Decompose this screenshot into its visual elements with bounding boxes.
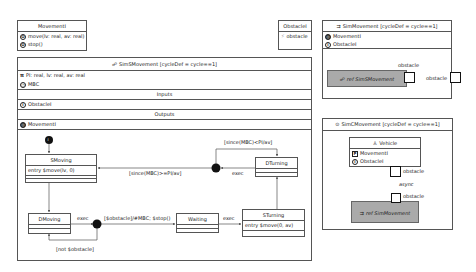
junction-dturning xyxy=(212,164,221,173)
ref-port-label: obstacle xyxy=(403,193,424,199)
output-interface-icon: ◎ xyxy=(325,34,331,40)
provided-interface-icon: P xyxy=(352,151,358,157)
ref-obstacle-port[interactable] xyxy=(391,193,401,203)
state-sturning[interactable]: STurning entry $move(0, av) xyxy=(242,209,305,237)
transition-label-not-obstacle: [not $obstacle] xyxy=(56,246,94,252)
junction-dmoving xyxy=(93,220,102,229)
robot-icon: ♙ xyxy=(373,140,377,146)
transition-label-dmoving-exec: exec xyxy=(77,215,89,221)
module-icon: ⇉ xyxy=(336,23,340,29)
vehicle-input: iObstacleI xyxy=(350,157,420,165)
outer-obstacle-port[interactable] xyxy=(450,72,461,83)
initial-state xyxy=(45,136,53,144)
state-smoving[interactable]: SMoving entry $move(lv, 0) xyxy=(25,154,97,183)
state-dturning[interactable]: DTurning xyxy=(255,157,298,177)
sim-movement-header: ⇉SimMovement [cycleDef = cycle==1] xyxy=(323,21,451,32)
inner-obstacle-port[interactable] xyxy=(404,72,415,83)
ref-sim-s-movement[interactable]: ☍ref SimSMovement xyxy=(327,70,407,87)
vehicle-provided: PMovementI xyxy=(350,149,420,157)
state-waiting[interactable]: Waiting xyxy=(176,213,219,233)
vehicle-box[interactable]: ♙Vehicle PMovementI iObstacleI xyxy=(349,137,421,167)
vehicle-header: ♙Vehicle xyxy=(350,138,420,149)
input-interface-icon: i xyxy=(325,42,331,48)
sim-c-movement-header: ⊙SimCMovement [cycleDef = cycle==1] xyxy=(323,119,452,131)
transition-label-guard-loop: [since(MBC)<PI/av] xyxy=(224,139,272,145)
outer-port-label: obstacle xyxy=(426,75,447,81)
transition-label-dturning-exec: exec xyxy=(232,170,244,176)
transition-label-to-smoving: [since(MBC)>=PI/av] xyxy=(129,170,182,176)
sim-movement-output: ◎MovementI xyxy=(323,32,451,40)
inner-port-label: obstacle xyxy=(398,62,419,68)
state-machine-icon: ☍ xyxy=(340,76,345,82)
vehicle-port-label: obstacle xyxy=(403,168,424,174)
input-interface-icon: i xyxy=(352,159,358,165)
vehicle-obstacle-port[interactable] xyxy=(390,166,401,177)
transition-label-waiting-exec: exec xyxy=(223,215,235,221)
module-icon: ⇉ xyxy=(360,210,364,216)
state-dmoving[interactable]: DMoving xyxy=(28,213,71,234)
initial-state-label: i xyxy=(48,137,49,142)
ref-sim-movement[interactable]: ⇉ref SimMovement xyxy=(351,201,419,223)
controller-icon: ⊙ xyxy=(335,121,339,127)
async-connection-label: async xyxy=(399,181,414,187)
sim-movement-input: iObstacleI xyxy=(323,40,451,49)
transition-label-obstacle-guard: [$obstacle]/#MBC; $stop() xyxy=(104,215,170,221)
